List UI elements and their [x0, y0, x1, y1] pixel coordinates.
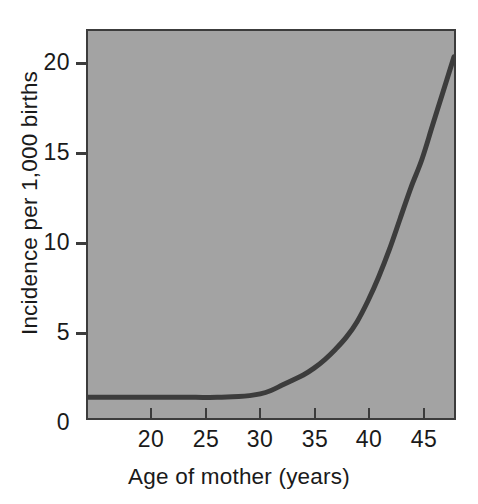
chart-figure: 20 15 10 5 0 Incidence per 1,000 births … — [0, 0, 478, 504]
incidence-line — [88, 57, 454, 398]
x-tick-mark — [314, 408, 316, 420]
y-tick-mark — [76, 242, 86, 245]
x-tick-label: 30 — [238, 426, 282, 453]
y-tick-mark — [76, 152, 86, 155]
x-tick-mark — [368, 408, 370, 420]
x-tick-mark — [205, 408, 207, 420]
x-axis-title: Age of mother (years) — [0, 464, 478, 490]
x-tick-label: 45 — [402, 426, 446, 453]
x-axis: 20 25 30 35 40 45 Age of mother (years) — [0, 420, 478, 504]
x-tick-label: 40 — [347, 426, 391, 453]
plot-area — [86, 29, 456, 420]
y-axis-title: Incidence per 1,000 births — [17, 23, 43, 383]
x-tick-label: 25 — [184, 426, 228, 453]
y-tick-label: 20 — [43, 49, 70, 76]
y-tick-label: 10 — [43, 229, 70, 256]
x-tick-label: 35 — [293, 426, 337, 453]
y-tick-label: 5 — [57, 319, 70, 346]
x-tick-mark — [423, 408, 425, 420]
x-tick-mark — [150, 408, 152, 420]
y-tick-label: 15 — [43, 139, 70, 166]
y-tick-mark — [76, 62, 86, 65]
x-tick-mark — [259, 408, 261, 420]
x-tick-label: 20 — [129, 426, 173, 453]
incidence-curve-svg — [88, 31, 454, 418]
y-tick-mark — [76, 332, 86, 335]
